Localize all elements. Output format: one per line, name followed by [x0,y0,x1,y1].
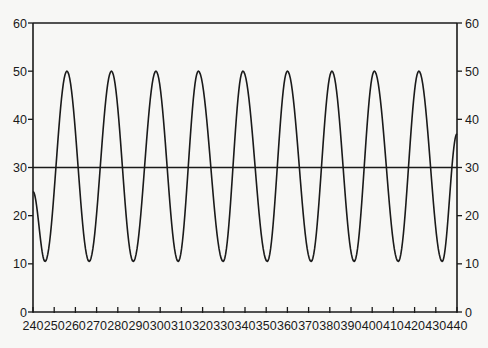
x-tick-label: 330 [213,319,234,333]
y-tick-label-left: 20 [13,209,27,223]
y-tick-label-right: 50 [465,65,479,79]
y-tick-label-left: 30 [13,161,27,175]
y-tick-label-left: 0 [20,306,27,320]
y-tick-label-right: 40 [465,113,479,127]
x-tick-label: 430 [425,319,446,333]
y-tick-label-right: 60 [465,17,479,31]
x-tick-label: 410 [383,319,404,333]
x-tick-label: 440 [447,319,468,333]
x-tick-label: 240 [23,319,44,333]
y-tick-label-left: 10 [13,257,27,271]
y-axis-left-ticks: 0102030405060 [13,17,33,320]
y-tick-label-right: 30 [465,161,479,175]
y-tick-label-right: 0 [465,306,472,320]
x-tick-label: 320 [192,319,213,333]
x-tick-label: 280 [107,319,128,333]
oscillation-line [33,71,457,261]
y-tick-label-right: 10 [465,257,479,271]
y-tick-label-right: 20 [465,209,479,223]
x-tick-label: 290 [129,319,150,333]
x-tick-label: 370 [298,319,319,333]
x-tick-label: 270 [86,319,107,333]
x-axis-ticks: 2402502602702802903003103203303403503603… [23,307,468,333]
x-tick-label: 390 [341,319,362,333]
y-tick-label-left: 40 [13,113,27,127]
oscillation-series [33,71,457,261]
y-tick-label-left: 60 [13,17,27,31]
x-tick-label: 310 [171,319,192,333]
y-axis-right-ticks: 0102030405060 [457,17,479,320]
x-tick-label: 340 [235,319,256,333]
x-tick-label: 400 [362,319,383,333]
x-tick-label: 260 [65,319,86,333]
oscillation-chart: 2402502602702802903003103203303403503603… [0,0,488,348]
x-tick-label: 250 [44,319,65,333]
x-tick-label: 380 [319,319,340,333]
x-tick-label: 350 [256,319,277,333]
y-tick-label-left: 50 [13,65,27,79]
x-tick-label: 420 [404,319,425,333]
x-tick-label: 300 [150,319,171,333]
x-tick-label: 360 [277,319,298,333]
